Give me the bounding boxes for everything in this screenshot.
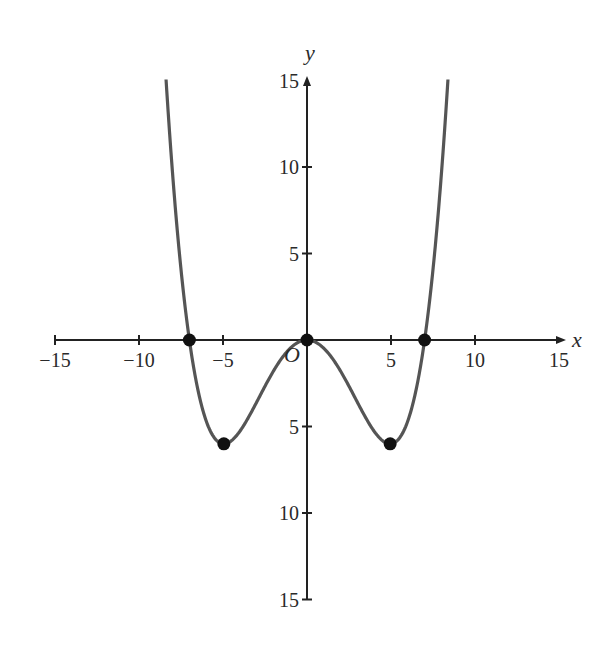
x-tick-label: −5 xyxy=(212,349,233,371)
y-axis-label: y xyxy=(303,40,315,65)
marked-point xyxy=(301,334,314,347)
marked-point xyxy=(418,334,431,347)
marked-point xyxy=(217,437,230,450)
x-axis-label: x xyxy=(571,327,582,352)
y-tick-label: 15 xyxy=(279,589,299,611)
x-tick-label: 15 xyxy=(549,349,569,371)
y-tick-label: 15 xyxy=(279,70,299,92)
y-tick-label: 10 xyxy=(279,502,299,524)
y-tick-label: 5 xyxy=(289,416,299,438)
marked-point xyxy=(384,437,397,450)
x-axis-arrow-icon xyxy=(556,336,566,344)
marked-point xyxy=(183,334,196,347)
x-tick-label: 5 xyxy=(386,349,396,371)
function-graph: −15−10−5510151510551015 x y O xyxy=(0,0,606,650)
y-tick-label: 10 xyxy=(279,156,299,178)
y-tick-label: 5 xyxy=(289,243,299,265)
y-axis-arrow-icon xyxy=(303,76,311,86)
origin-label: O xyxy=(284,342,300,367)
x-tick-label: −15 xyxy=(39,349,70,371)
x-tick-label: −10 xyxy=(123,349,154,371)
x-tick-label: 10 xyxy=(465,349,485,371)
